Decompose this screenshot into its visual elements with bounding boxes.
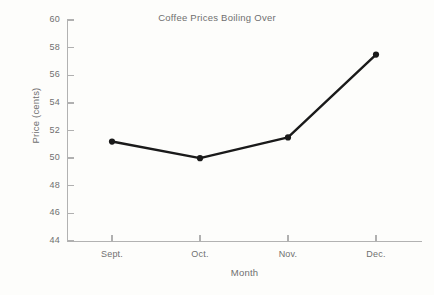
x-axis-line xyxy=(67,241,422,242)
y-tick-label: 54 xyxy=(26,97,60,107)
y-tick-label: 46 xyxy=(26,207,60,217)
data-line-coffee-price xyxy=(112,55,376,159)
y-tick-label: 44 xyxy=(26,235,60,245)
data-series-svg xyxy=(68,20,420,241)
y-tick-label: 52 xyxy=(26,125,60,135)
y-tick-label: 58 xyxy=(26,42,60,52)
y-tick-label: 50 xyxy=(26,152,60,162)
y-tick-label: 56 xyxy=(26,69,60,79)
data-point-marker xyxy=(197,155,203,161)
x-tick-label: Oct. xyxy=(165,249,235,259)
data-point-marker xyxy=(285,134,291,140)
x-tick-label: Sept. xyxy=(77,249,147,259)
y-tick-label: 48 xyxy=(26,180,60,190)
data-point-marker xyxy=(373,51,379,57)
x-axis-title: Month xyxy=(67,267,422,278)
line-chart-figure: Coffee Prices Boiling Over Price (cents)… xyxy=(0,0,434,295)
plot-area xyxy=(68,20,420,241)
y-tick-label: 60 xyxy=(26,14,60,24)
x-tick-label: Nov. xyxy=(253,249,323,259)
x-tick-label: Dec. xyxy=(341,249,411,259)
data-point-marker xyxy=(109,138,115,144)
data-markers-group xyxy=(109,51,379,161)
